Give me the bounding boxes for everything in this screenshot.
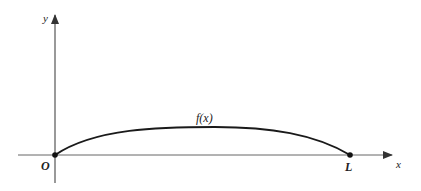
function-diagram: y x O L f(x) bbox=[0, 0, 421, 191]
curve-label: f(x) bbox=[196, 111, 213, 125]
y-axis-label: y bbox=[42, 12, 48, 24]
origin-point bbox=[52, 152, 58, 158]
endpoint-label: L bbox=[344, 160, 352, 174]
endpoint-L bbox=[347, 152, 353, 158]
origin-label: O bbox=[41, 159, 50, 173]
x-axis-label: x bbox=[395, 158, 401, 170]
curve-f-of-x bbox=[55, 127, 350, 155]
